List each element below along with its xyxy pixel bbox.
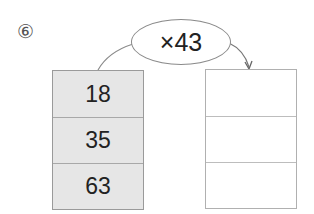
answer-cell[interactable] <box>206 70 296 116</box>
operator-bubble: ×43 <box>131 19 231 65</box>
operator-label: ×43 <box>160 28 202 57</box>
answer-column <box>205 69 297 209</box>
answer-cell[interactable] <box>206 162 296 208</box>
input-column: 18 35 63 <box>52 70 144 210</box>
answer-cell[interactable] <box>206 116 296 162</box>
input-cell: 18 <box>53 71 143 117</box>
input-cell: 63 <box>53 163 143 209</box>
input-cell: 35 <box>53 117 143 163</box>
